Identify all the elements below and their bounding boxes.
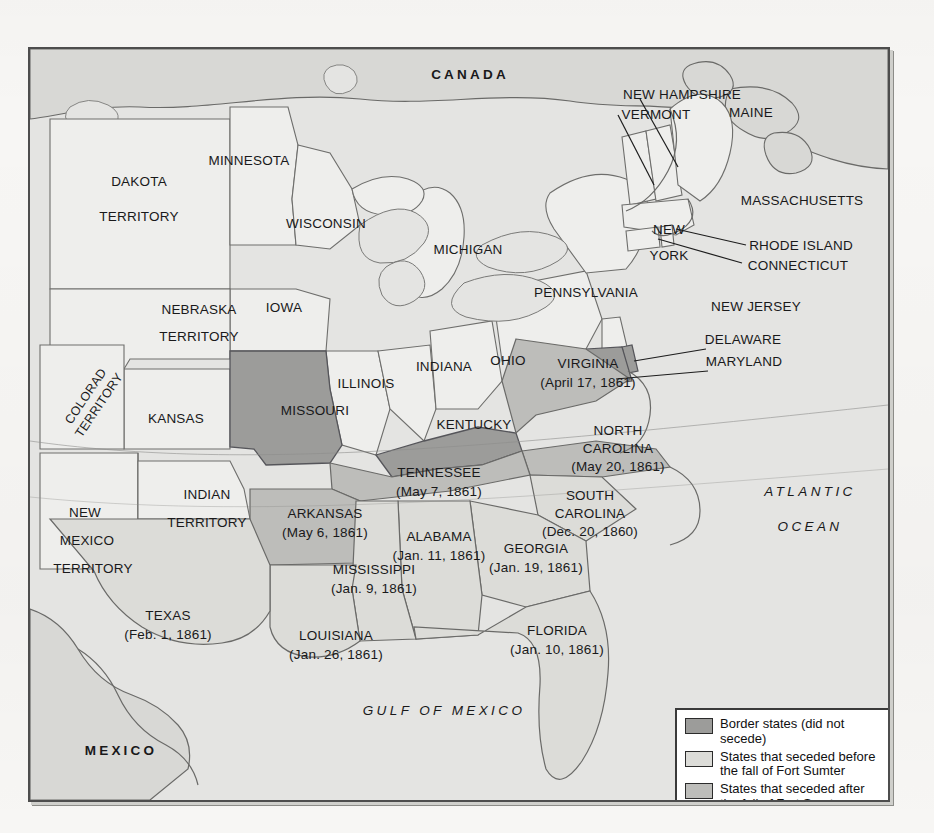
legend-label-seceded-before: States that seceded before the fall of F…	[720, 750, 875, 780]
legend-swatch-border-states	[685, 718, 713, 734]
legend-label-seceded-after: States that seceded after the fall of Fo…	[720, 782, 865, 802]
map-legend: Border states (did not secede) States th…	[675, 708, 890, 802]
legend-item-seceded-before: States that seceded before the fall of F…	[685, 750, 887, 780]
map-canvas: .ln { fill:none; stroke:#6e6e6c; stroke-…	[30, 49, 888, 800]
legend-swatch-seceded-before	[685, 751, 713, 767]
map-scale-bar: 0 250 500 Miles 0 250 500 Kilometers	[321, 798, 573, 802]
legend-item-border-states: Border states (did not secede)	[685, 717, 887, 747]
scale-label-miles-250: 250	[433, 798, 454, 802]
legend-label-border-states: Border states (did not secede)	[720, 717, 887, 747]
legend-item-seceded-after: States that seceded after the fall of Fo…	[685, 782, 887, 802]
scale-label-miles-0: 0	[330, 798, 337, 802]
legend-swatch-seceded-after	[685, 783, 713, 799]
map-frame: .ln { fill:none; stroke:#6e6e6c; stroke-…	[28, 47, 890, 802]
scale-label-miles-500: 500 Miles	[516, 798, 570, 802]
